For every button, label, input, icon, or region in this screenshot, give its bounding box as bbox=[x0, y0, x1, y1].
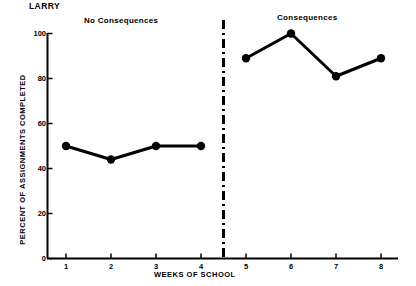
data-point-week-6 bbox=[287, 29, 295, 37]
data-point-week-1 bbox=[62, 142, 70, 150]
chart-container: LARRY No Consequences Consequences PERCE… bbox=[0, 0, 416, 286]
data-point-week-3 bbox=[152, 142, 160, 150]
data-point-week-7 bbox=[332, 72, 340, 80]
data-point-week-2 bbox=[107, 155, 115, 163]
series-line-1 bbox=[66, 146, 201, 160]
plot-area bbox=[0, 0, 416, 286]
data-point-week-5 bbox=[242, 54, 250, 62]
data-point-week-8 bbox=[377, 54, 385, 62]
series-line-2 bbox=[246, 34, 381, 77]
data-point-week-4 bbox=[197, 142, 205, 150]
